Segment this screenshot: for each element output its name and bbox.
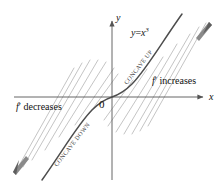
f-prime-increases-prime: ′ bbox=[155, 75, 157, 86]
equation-exponent: 3 bbox=[146, 26, 149, 33]
f-prime-increases-text: increases bbox=[159, 75, 196, 86]
tangent-direction-arrow-upper-right bbox=[196, 22, 212, 41]
x-axis-label: x bbox=[209, 91, 213, 102]
origin-label: 0 bbox=[99, 98, 105, 110]
f-prime-decreases-label: f′ decreases bbox=[16, 101, 62, 112]
figure-canvas bbox=[0, 0, 221, 188]
f-prime-increases-label: f′ increases bbox=[152, 75, 196, 86]
concavity-figure: y x 0 y=x3 f′ increases f′ decreases CON… bbox=[0, 0, 221, 188]
f-prime-decreases-text: decreases bbox=[23, 101, 61, 112]
f-prime-decreases-prime: ′ bbox=[19, 101, 21, 112]
y-axis-label: y bbox=[116, 12, 120, 23]
equation-label: y=x3 bbox=[131, 26, 149, 38]
tangent-direction-arrow-lower-left bbox=[13, 156, 29, 175]
